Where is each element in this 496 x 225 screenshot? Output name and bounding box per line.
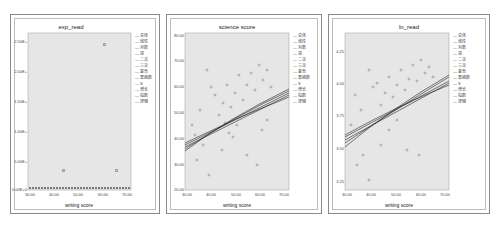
svg-text:— 总体: — 总体 [293, 32, 306, 38]
svg-text:— 对数: — 对数 [135, 44, 148, 50]
x-axis-label: writing score [65, 202, 93, 208]
svg-text:30.00: 30.00 [342, 192, 353, 197]
svg-text:3.50: 3.50 [336, 146, 345, 151]
svg-text:— 线性: — 线性 [453, 38, 466, 44]
svg-text:— 三次: — 三次 [293, 62, 306, 68]
scatter-chart-ln-read: ln_read 3.253.503.75 4.004.25 30.0040.00… [329, 15, 491, 215]
svg-text:— 二次: — 二次 [135, 56, 148, 62]
svg-text:— 增长: — 增长 [135, 86, 148, 92]
svg-text:70.00: 70.00 [122, 192, 133, 197]
svg-text:60.00: 60.00 [416, 192, 427, 197]
svg-text:50.00: 50.00 [391, 192, 402, 197]
svg-text:50.00: 50.00 [73, 192, 84, 197]
scatter-chart-science-score: science score 20.0030.0040.00 50.0060.00… [167, 15, 323, 215]
svg-text:4.00: 4.00 [336, 81, 345, 86]
svg-text:1.50E+: 1.50E+ [14, 99, 27, 104]
svg-text:— 三次: — 三次 [135, 62, 148, 68]
svg-text:3.25: 3.25 [336, 179, 345, 184]
svg-text:3.75: 3.75 [336, 113, 345, 118]
svg-text:40.00: 40.00 [174, 136, 185, 141]
svg-text:— 复合: — 复合 [453, 68, 466, 74]
svg-text:30.00: 30.00 [182, 192, 193, 197]
x-axis-label: writing score [385, 202, 413, 208]
svg-text:— 逻辑: — 逻辑 [453, 98, 466, 104]
svg-text:50.00: 50.00 [174, 110, 185, 115]
svg-text:— 线性: — 线性 [293, 38, 306, 44]
chart-title: ln_read [399, 24, 419, 30]
svg-text:— 复合: — 复合 [135, 68, 148, 74]
svg-text:2.50E+: 2.50E+ [14, 39, 27, 44]
svg-text:— 对数: — 对数 [453, 44, 466, 50]
svg-text:80.00: 80.00 [174, 33, 185, 38]
svg-text:— 总体: — 总体 [453, 32, 466, 38]
svg-text:60.00: 60.00 [255, 192, 266, 197]
svg-text:— 增长: — 增长 [453, 86, 466, 92]
svg-text:o: o [62, 167, 65, 173]
svg-text:— S: — S [453, 81, 461, 86]
svg-text:— 复合: — 复合 [293, 68, 306, 74]
svg-text:70.00: 70.00 [440, 192, 451, 197]
chart-panel-science-score[interactable]: science score 20.0030.0040.00 50.0060.00… [166, 14, 322, 214]
svg-text:5.00E+: 5.00E+ [14, 159, 27, 164]
svg-text:4.25: 4.25 [336, 49, 345, 54]
svg-text:— 幂函数: — 幂函数 [453, 74, 470, 80]
svg-text:— 逆: — 逆 [135, 50, 144, 56]
chart-title: exp_read [58, 24, 83, 30]
svg-text:60.00: 60.00 [174, 84, 185, 89]
svg-text:— 逻辑: — 逻辑 [293, 98, 306, 104]
svg-text:— 二次: — 二次 [453, 56, 466, 62]
chart-panel-exp-read[interactable]: exp_read 0.00E+05.00E+1.00E+ 1.50E+2.00E… [10, 14, 160, 214]
svg-text:o: o [115, 167, 118, 173]
svg-text:— 指数: — 指数 [293, 92, 306, 98]
svg-text:— 二次: — 二次 [293, 56, 306, 62]
svg-text:30.00: 30.00 [174, 162, 185, 167]
svg-text:— 三次: — 三次 [453, 62, 466, 68]
svg-text:40.00: 40.00 [206, 192, 217, 197]
svg-text:— 逻辑: — 逻辑 [135, 98, 148, 104]
svg-text:40.00: 40.00 [49, 192, 60, 197]
svg-text:— 幂函数: — 幂函数 [135, 74, 152, 80]
x-axis-label: writing score [223, 202, 251, 208]
svg-text:30.00: 30.00 [25, 192, 36, 197]
scatter-chart-exp-read: exp_read 0.00E+05.00E+1.00E+ 1.50E+2.00E… [11, 15, 161, 215]
svg-text:1.00E+: 1.00E+ [14, 129, 27, 134]
svg-text:70.00: 70.00 [279, 192, 290, 197]
svg-text:— 逆: — 逆 [453, 50, 462, 56]
svg-text:— 线性: — 线性 [135, 38, 148, 44]
svg-text:o: o [103, 41, 106, 47]
svg-text:— 指数: — 指数 [453, 92, 466, 98]
svg-text:— 指数: — 指数 [135, 92, 148, 98]
svg-text:2.00E+: 2.00E+ [14, 69, 27, 74]
chart-title: science score [219, 24, 256, 30]
svg-text:— 对数: — 对数 [293, 44, 306, 50]
svg-text:— 增长: — 增长 [293, 86, 306, 92]
svg-text:60.00: 60.00 [98, 192, 109, 197]
svg-text:— S: — S [135, 81, 143, 86]
svg-text:— 总体: — 总体 [135, 32, 148, 38]
chart-panel-ln-read[interactable]: ln_read 3.253.503.75 4.004.25 30.0040.00… [328, 14, 490, 214]
svg-text:70.00: 70.00 [174, 58, 185, 63]
svg-text:40.00: 40.00 [366, 192, 377, 197]
svg-text:— S: — S [293, 81, 301, 86]
svg-text:50.00: 50.00 [231, 192, 242, 197]
svg-text:— 逆: — 逆 [293, 50, 302, 56]
svg-text:— 幂函数: — 幂函数 [293, 74, 310, 80]
